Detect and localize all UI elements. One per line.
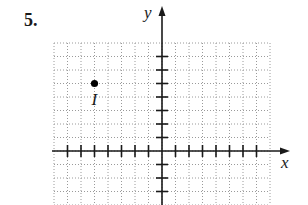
- y-axis-label: y: [142, 3, 152, 22]
- point-marker: [91, 80, 98, 87]
- coordinate-plane: I x y: [0, 0, 308, 205]
- plotted-points: I: [91, 80, 99, 109]
- point-label: I: [91, 90, 99, 109]
- x-axis-label: x: [280, 153, 289, 172]
- axes: [52, 6, 290, 205]
- y-axis-arrow-icon: [159, 6, 166, 16]
